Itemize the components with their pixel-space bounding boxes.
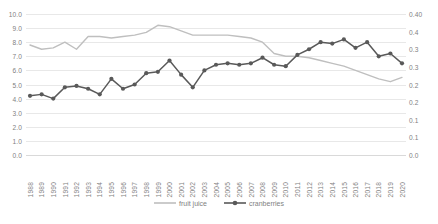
data-point: [388, 51, 392, 55]
y-axis-right-tick: 0.3: [409, 63, 418, 70]
data-point: [295, 53, 299, 57]
legend-swatch-line-icon: [154, 199, 176, 207]
x-axis-tick: 2010: [282, 182, 289, 197]
y-axis-left-tick: 6.0: [13, 67, 22, 74]
legend-label: cranberries: [249, 200, 284, 207]
x-axis-tick: 2009: [271, 182, 278, 197]
data-point: [28, 94, 32, 98]
y-axis-left-tick: 7.0: [13, 53, 22, 60]
x-axis-tick: 2019: [387, 182, 394, 197]
data-point: [260, 56, 264, 60]
x-axis-tick: 2016: [352, 182, 359, 197]
y-axis-left-tick: 10.0: [9, 11, 22, 18]
data-point: [74, 84, 78, 88]
data-point: [272, 63, 276, 67]
data-point: [156, 70, 160, 74]
y-axis-right-tick: 0.40: [409, 11, 422, 18]
data-point: [307, 47, 311, 51]
x-axis-tick: 1993: [85, 182, 92, 197]
x-axis-tick: 2017: [364, 182, 371, 197]
y-axis-left-tick: 9.0: [13, 25, 22, 32]
data-point: [365, 40, 369, 44]
series-layer: [26, 14, 406, 155]
plot-area: [26, 14, 406, 155]
x-axis-tick: 2018: [375, 182, 382, 197]
chart-container: 0.01.02.03.04.05.06.07.08.09.010.0 0.00.…: [0, 0, 438, 224]
x-axis-tick: 1989: [38, 182, 45, 197]
chart-legend: fruit juice cranberries: [0, 199, 438, 207]
data-point: [51, 97, 55, 101]
y-axis-right: 0.00.10.10.20.20.30.30.40.40: [409, 14, 438, 155]
data-point: [63, 85, 67, 89]
x-axis-tick: 1994: [96, 182, 103, 197]
x-axis-tick: 2013: [317, 182, 324, 197]
data-point: [353, 46, 357, 50]
data-point: [98, 92, 102, 96]
data-point: [179, 73, 183, 77]
data-point: [377, 54, 381, 58]
y-axis-left-tick: 8.0: [13, 39, 22, 46]
y-axis-left-tick: 5.0: [13, 81, 22, 88]
legend-item-cranberries[interactable]: cranberries: [224, 199, 284, 207]
x-axis-tick: 2014: [329, 182, 336, 197]
data-point: [249, 61, 253, 65]
data-point: [237, 63, 241, 67]
x-axis-tick: 2012: [306, 182, 313, 197]
x-axis-tick: 1997: [131, 182, 138, 197]
y-axis-right-tick: 0.1: [409, 116, 418, 123]
x-axis-tick: 2006: [236, 182, 243, 197]
data-point: [342, 37, 346, 41]
data-point: [226, 61, 230, 65]
data-point: [133, 82, 137, 86]
data-point: [144, 71, 148, 75]
x-axis-tick: 1999: [155, 182, 162, 197]
x-axis-tick: 2004: [213, 182, 220, 197]
x-axis-tick: 1991: [62, 182, 69, 197]
x-axis-tick: 2008: [259, 182, 266, 197]
y-axis-right-tick: 0.3: [409, 46, 418, 53]
data-point: [121, 87, 125, 91]
x-axis: 1988198919901991199219931994199519961997…: [26, 157, 406, 197]
x-axis-tick: 2002: [189, 182, 196, 197]
data-point: [191, 85, 195, 89]
y-axis-right-tick: 0.4: [409, 28, 418, 35]
y-axis-left: 0.01.02.03.04.05.06.07.08.09.010.0: [0, 14, 22, 155]
data-point: [86, 87, 90, 91]
y-axis-right-tick: 0.2: [409, 99, 418, 106]
legend-label: fruit juice: [179, 200, 207, 207]
x-axis-tick: 2001: [178, 182, 185, 197]
data-point: [202, 68, 206, 72]
x-axis-tick: 1996: [120, 182, 127, 197]
x-axis-tick: 1992: [73, 182, 80, 197]
x-axis-tick: 2005: [224, 182, 231, 197]
y-axis-left-tick: 3.0: [13, 109, 22, 116]
y-axis-left-tick: 0.0: [13, 152, 22, 159]
data-point: [319, 40, 323, 44]
y-axis-right-tick: 0.1: [409, 134, 418, 141]
y-axis-right-tick: 0.2: [409, 81, 418, 88]
y-axis-left-tick: 2.0: [13, 123, 22, 130]
data-point: [167, 58, 171, 62]
y-axis-right-tick: 0.0: [409, 152, 418, 159]
y-axis-left-tick: 4.0: [13, 95, 22, 102]
x-axis-tick: 1988: [27, 182, 34, 197]
x-axis-tick: 1995: [108, 182, 115, 197]
legend-item-fruit-juice[interactable]: fruit juice: [154, 199, 207, 207]
x-axis-tick: 2007: [248, 182, 255, 197]
data-point: [40, 92, 44, 96]
data-point: [109, 77, 113, 81]
legend-swatch-marker-line-icon: [224, 199, 246, 207]
data-point: [330, 42, 334, 46]
x-axis-tick: 2000: [166, 182, 173, 197]
x-axis-tick: 2011: [294, 182, 301, 197]
series-line-fruit-juice: [30, 25, 402, 81]
series-line-cranberries: [30, 39, 402, 98]
x-axis-tick: 2015: [341, 182, 348, 197]
data-point: [214, 63, 218, 67]
x-axis-tick: 2003: [201, 182, 208, 197]
data-point: [284, 64, 288, 68]
x-axis-tick: 2020: [399, 182, 406, 197]
y-axis-left-tick: 1.0: [13, 137, 22, 144]
x-axis-tick: 1998: [143, 182, 150, 197]
data-point: [400, 61, 404, 65]
